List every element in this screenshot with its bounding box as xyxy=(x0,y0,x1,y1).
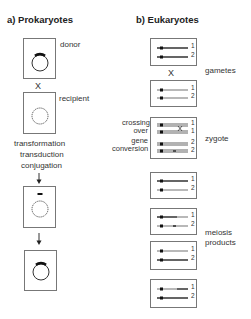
chromosome-number: 1 xyxy=(191,245,195,252)
donor-cell xyxy=(23,38,56,79)
chromosome-number: 1 xyxy=(191,42,195,49)
transformed-cell-1 xyxy=(23,186,56,228)
chromosome-number: 2 xyxy=(191,51,195,58)
chromosome-number: 2 xyxy=(191,184,195,191)
panel-a-title: a) Prokaryotes xyxy=(7,14,73,25)
chromosome-number: 2 xyxy=(191,220,195,227)
chromosome-number: 1 xyxy=(191,283,195,290)
products-label: products xyxy=(205,238,236,247)
chromosome-number: 1 xyxy=(191,175,195,182)
cross-symbol-a: X xyxy=(35,81,41,91)
meiosis-product-3: 1 2 xyxy=(150,241,197,270)
cross-symbol-b: X xyxy=(168,68,174,78)
recipient-plasmid-icon xyxy=(24,93,57,135)
chromosome-number: 1 xyxy=(191,211,195,218)
meiosis-product-4: 1 2 xyxy=(150,279,197,308)
crossover-icon xyxy=(178,126,182,131)
meiosis-product-1: 1 2 xyxy=(150,172,197,199)
gametes-label: gametes xyxy=(205,66,236,75)
recombinant-plasmid-icon xyxy=(25,251,58,292)
gamete-1: 1 2 xyxy=(150,38,197,66)
plasmid-with-fragment-icon xyxy=(24,187,57,229)
gamete-2: 1 2 xyxy=(150,80,197,107)
meiosis-product-2: 1 2 xyxy=(150,208,197,235)
recipient-cell xyxy=(23,92,56,134)
recipient-label: recipient xyxy=(59,94,89,103)
mechanism-transformation: transformation xyxy=(14,139,65,148)
chromosome-number: 2 xyxy=(191,292,195,299)
chromosome-number: 2 xyxy=(191,138,195,145)
crossing-over-label-line2: over xyxy=(122,126,148,135)
donor-label: donor xyxy=(60,40,80,49)
chromosome-number: 2 xyxy=(191,146,195,153)
chromosome-number: 2 xyxy=(191,254,195,261)
gene-conversion-label-line2: conversion xyxy=(112,144,148,153)
panel-b-title: b) Eukaryotes xyxy=(136,14,199,25)
donor-plasmid-icon xyxy=(24,39,57,80)
meiosis-label: meiosis xyxy=(205,228,232,237)
zygote: 1 1 2 2 xyxy=(150,117,197,159)
chromosome-number: 1 xyxy=(191,127,195,134)
chromosome-number: 1 xyxy=(191,119,195,126)
zygote-label: zygote xyxy=(205,134,229,143)
chromosome-number: 1 xyxy=(191,84,195,91)
recombinant-cell xyxy=(24,250,57,291)
chromosome-number: 2 xyxy=(191,92,195,99)
mechanism-conjugation: conjugation xyxy=(21,161,62,170)
mechanism-transduction: transduction xyxy=(20,150,64,159)
